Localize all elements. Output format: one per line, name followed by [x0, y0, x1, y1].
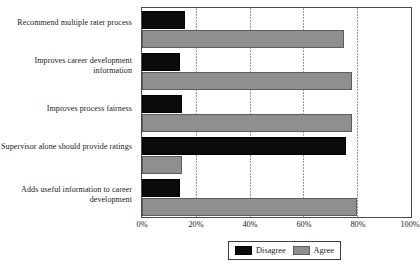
- bar-agree: [142, 156, 182, 174]
- category-axis-labels: Recommend multiple rater process Improve…: [0, 0, 136, 218]
- bar-chart: Recommend multiple rater process Improve…: [0, 0, 420, 264]
- chart-legend: Disagree Agree: [228, 241, 341, 260]
- bar-disagree: [142, 95, 182, 113]
- x-tick-label: 20%: [188, 220, 203, 229]
- bar-agree: [142, 72, 352, 90]
- bar-agree: [142, 198, 357, 216]
- x-tick-label: 100%: [400, 220, 419, 229]
- x-tick-label: 40%: [242, 220, 257, 229]
- bar-disagree: [142, 137, 346, 155]
- category-label: Improves career development information: [0, 56, 132, 76]
- bar-disagree: [142, 179, 180, 197]
- legend-swatch-disagree-icon: [235, 246, 252, 255]
- x-axis-tick-labels: 0% 20% 40% 60% 80% 100%: [0, 220, 420, 234]
- plot-area: [141, 7, 412, 218]
- bar-agree: [142, 114, 352, 132]
- category-label: Improves process fairness: [0, 104, 132, 114]
- category-label: Recommend multiple rater process: [0, 18, 132, 28]
- category-label: Adds useful information to career develo…: [0, 185, 132, 205]
- x-tick-label: 60%: [296, 220, 311, 229]
- legend-swatch-agree-icon: [293, 246, 310, 255]
- bar-disagree: [142, 53, 180, 71]
- bar-group: [142, 11, 411, 49]
- x-tick-label: 0%: [137, 220, 148, 229]
- legend-label: Disagree: [256, 246, 286, 255]
- legend-item-agree: Agree: [293, 246, 334, 255]
- legend-label: Agree: [314, 246, 334, 255]
- x-tick-label: 80%: [350, 220, 365, 229]
- bar-group: [142, 95, 411, 133]
- bar-group: [142, 179, 411, 217]
- bar-agree: [142, 30, 344, 48]
- bar-disagree: [142, 11, 185, 29]
- bar-group: [142, 53, 411, 91]
- category-label: Supervisor alone should provide ratings: [0, 142, 132, 152]
- legend-item-disagree: Disagree: [235, 246, 286, 255]
- bar-group: [142, 137, 411, 175]
